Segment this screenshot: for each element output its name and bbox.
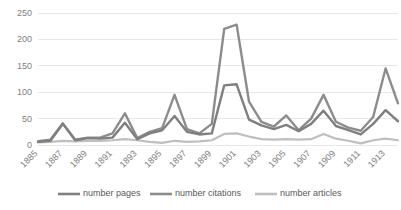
x-axis-tick-label: 1895 [142,148,163,169]
x-axis-tick-label: 1907 [291,148,312,169]
x-axis-tick-label: 1909 [316,148,337,169]
series-line-number-pages [38,84,398,142]
x-axis-tick-label: 1897 [167,148,188,169]
x-axis-tick-label: 1893 [117,148,138,169]
x-axis-tick-labels: 1885188718891891189318951897189919011903… [18,148,387,169]
x-axis-tick-label: 1911 [341,148,362,169]
legend-item-label[interactable]: number citations [175,188,242,198]
y-axis-tick-label: 50 [22,114,32,124]
series-line-number-citations [38,25,398,142]
x-axis-tick-label: 1903 [242,148,263,169]
x-axis-tick-label: 1889 [68,148,89,169]
chart-legend: number pagesnumber citationsnumber artic… [58,188,342,198]
y-axis-tick-labels: 050100150200250 [17,8,32,150]
x-axis-tick-label: 1891 [93,148,114,169]
legend-item-label[interactable]: number pages [83,188,141,198]
y-axis-tick-label: 200 [17,34,32,44]
series-lines-group [38,25,398,144]
chart-container: 050100150200250 188518871889189118931895… [0,0,401,210]
y-axis-tick-label: 250 [17,8,32,18]
y-axis-tick-label: 100 [17,87,32,97]
x-axis-tick-label: 1899 [192,148,213,169]
line-chart: 050100150200250 188518871889189118931895… [0,0,401,210]
x-axis-tick-label: 1885 [18,148,39,169]
x-axis-tick-label: 1905 [266,148,287,169]
y-axis-tick-label: 150 [17,61,32,71]
x-axis-tick-label: 1887 [43,148,64,169]
x-axis-tick-label: 1901 [217,148,238,169]
x-axis-tick-label: 1913 [366,148,387,169]
legend-item-label[interactable]: number articles [280,188,342,198]
